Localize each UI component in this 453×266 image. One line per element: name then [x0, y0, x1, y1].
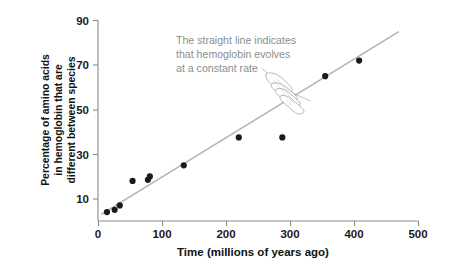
x-axis-tick-label-0: 0: [95, 228, 101, 240]
data-point: [279, 134, 285, 140]
hemoglobin-divergence-scatter-chart: 90 70 50 30 10 Percentage of amino acids…: [0, 0, 453, 266]
x-axis-tick-label-200: 200: [216, 228, 235, 240]
data-point: [356, 58, 362, 64]
y-axis-tick-label-50: 50: [76, 104, 89, 116]
chart-svg: 90 70 50 30 10 Percentage of amino acids…: [0, 0, 453, 266]
x-axis-tick-label-300: 300: [280, 228, 299, 240]
data-point: [181, 162, 187, 168]
y-axis-tick-label-10: 10: [76, 193, 89, 205]
y-axis-title-line-1: Percentage of amino acids: [40, 54, 51, 186]
data-point: [322, 73, 328, 79]
data-point: [104, 209, 110, 215]
x-axis-tick-label-100: 100: [152, 228, 171, 240]
x-axis-tick-label-400: 400: [344, 228, 363, 240]
y-axis-tick-label-30: 30: [76, 149, 89, 161]
data-point: [129, 178, 135, 184]
x-axis-tick-label-500: 500: [408, 228, 427, 240]
data-point: [112, 207, 118, 213]
annotation-line-3: at a constant rate: [176, 62, 258, 74]
data-point: [117, 202, 123, 208]
y-axis-title-line-3: different between species: [66, 56, 77, 183]
y-axis-title-line-2: in hemoglobin that are: [53, 64, 64, 176]
y-axis-title: Percentage of amino acids in hemoglobin …: [40, 54, 77, 186]
x-axis-title: Time (millions of years ago): [177, 246, 329, 258]
annotation-line-2: that hemoglobin evolves: [176, 48, 290, 60]
y-axis-tick-label-90: 90: [76, 15, 89, 27]
data-point: [147, 173, 153, 179]
annotation-line-1: The straight line indicates: [176, 34, 296, 46]
data-point: [236, 134, 242, 140]
y-axis-tick-label-70: 70: [76, 59, 89, 71]
